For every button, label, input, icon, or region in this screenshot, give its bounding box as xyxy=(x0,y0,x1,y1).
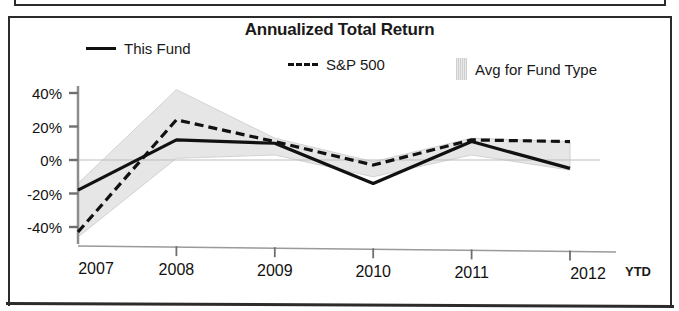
y-axis-ticks xyxy=(69,93,78,227)
x-axis-tick-label: 2012 xyxy=(570,265,606,282)
x-axis-line xyxy=(78,246,616,252)
x-axis-tick-label: 2010 xyxy=(355,263,391,280)
y-axis-tick-label: 0% xyxy=(40,152,62,169)
chart-svg: 40%20%0%-20%-40% 20072008200920102011201… xyxy=(0,0,679,311)
x-axis-tick-label: 2011 xyxy=(454,264,489,281)
chart-plot-area: 40%20%0%-20%-40% 20072008200920102011201… xyxy=(0,0,679,311)
y-axis-tick-label: -20% xyxy=(27,186,62,203)
y-axis-tick-label: -40% xyxy=(27,219,62,236)
y-axis-tick-label: 40% xyxy=(32,85,62,102)
x-axis-ytd-label: YTD xyxy=(625,264,651,279)
x-axis-tick-labels: 200720082009201020112012 xyxy=(78,260,606,282)
y-axis-tick-label: 20% xyxy=(32,119,62,136)
x-axis-tick-label: 2007 xyxy=(78,260,114,277)
y-axis-tick-labels: 40%20%0%-20%-40% xyxy=(27,85,62,236)
x-axis-tick-label: 2008 xyxy=(159,261,195,278)
x-axis-tick-label: 2009 xyxy=(257,262,293,279)
